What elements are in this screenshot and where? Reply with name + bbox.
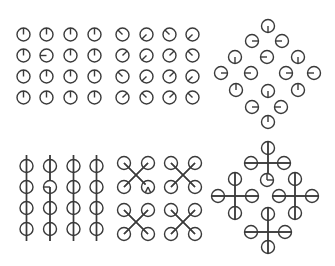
panel-grid-up-hands (17, 28, 101, 104)
clock-hand (188, 77, 193, 82)
clock-glyph (40, 91, 53, 104)
clock-hand (123, 51, 128, 56)
clock-glyph (261, 51, 274, 64)
clock-glyph (17, 49, 30, 62)
clock-glyph (280, 67, 293, 80)
clock-glyph (17, 28, 30, 41)
clock-glyph (230, 84, 243, 97)
clock-glyph (88, 70, 101, 83)
clock-hand (142, 35, 147, 40)
clock-glyph (140, 70, 153, 83)
clock-glyph (163, 49, 176, 62)
clock-glyph (64, 91, 77, 104)
clock-hand (145, 187, 148, 193)
clock-hand (188, 93, 193, 98)
clock-hand (142, 93, 147, 98)
clock-glyph (262, 85, 275, 98)
clock-glyph (116, 49, 129, 62)
clock-glyph (163, 91, 176, 104)
clock-glyph (17, 70, 30, 83)
panel-grid-x-clusters (118, 157, 202, 241)
panel-diamond-plus-clusters (211, 141, 319, 254)
clock-hand (118, 30, 123, 35)
clock-hand (118, 72, 123, 77)
clock-hand (165, 30, 170, 35)
clock-hand (148, 187, 151, 193)
clock-glyph (88, 91, 101, 104)
clock-hand (188, 35, 193, 40)
clock-glyph (88, 28, 101, 41)
clock-glyph (292, 84, 305, 97)
clock-glyph (246, 35, 259, 48)
clock-glyph (40, 49, 53, 62)
clock-glyph (262, 20, 275, 33)
clock-glyph (140, 28, 153, 41)
clock-glyph (229, 51, 242, 64)
clock-hand (123, 93, 128, 98)
clock-glyph (140, 49, 153, 62)
clock-glyph (186, 91, 199, 104)
clock-glyph (245, 67, 258, 80)
clock-glyph (116, 28, 129, 41)
clock-glyph (40, 28, 53, 41)
clock-glyph (261, 174, 274, 187)
clock-hand (170, 51, 175, 56)
clock-glyph (186, 49, 199, 62)
clock-glyph (292, 51, 305, 64)
clock-glyph (40, 70, 53, 83)
clock-glyph (186, 28, 199, 41)
clock-glyph (88, 49, 101, 62)
panel-grid-vertical-chains (20, 155, 103, 241)
clock-diagram (0, 0, 335, 266)
clock-glyph (64, 70, 77, 83)
clock-glyph (116, 91, 129, 104)
clock-glyph (262, 116, 275, 129)
panel-grid-diagonal-hands (116, 28, 199, 104)
clock-hand (170, 72, 175, 77)
clock-glyph (64, 49, 77, 62)
clock-glyph (275, 101, 288, 114)
clock-glyph (17, 91, 30, 104)
clock-glyph (246, 101, 259, 114)
clock-hand (142, 77, 147, 82)
clock-hand (188, 51, 193, 56)
clock-hand (170, 93, 175, 98)
clock-glyph (64, 28, 77, 41)
clock-glyph (308, 67, 321, 80)
clock-hand (142, 56, 147, 61)
clock-glyph (116, 70, 129, 83)
clock-glyph (163, 28, 176, 41)
clock-glyph (140, 91, 153, 104)
clock-glyph (163, 70, 176, 83)
panel-diamond-cardinal-hands (215, 20, 321, 129)
clock-glyph (186, 70, 199, 83)
clock-glyph (276, 35, 289, 48)
clock-glyph (215, 67, 228, 80)
